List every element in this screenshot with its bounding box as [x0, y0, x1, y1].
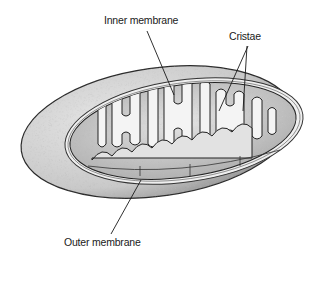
- mitochondrion-diagram: Inner membrane Cristae Outer membrane: [0, 0, 310, 287]
- mitochondrion-illustration: [0, 0, 310, 287]
- label-inner-membrane: Inner membrane: [104, 14, 178, 26]
- label-outer-membrane: Outer membrane: [64, 236, 141, 248]
- label-cristae: Cristae: [229, 30, 261, 42]
